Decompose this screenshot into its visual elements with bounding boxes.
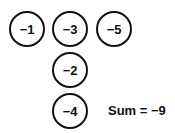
sum-label: Sum = −9: [108, 103, 166, 119]
number-circle-label: −2: [63, 64, 77, 77]
number-circle-label: −4: [63, 105, 77, 118]
number-circle-top-2[interactable]: −3: [52, 11, 88, 47]
number-circle-top-3[interactable]: −5: [96, 11, 132, 47]
number-circle-top-1[interactable]: −1: [9, 11, 45, 47]
number-circle-label: −3: [63, 23, 77, 36]
number-circle-label: −1: [20, 23, 34, 36]
number-circle-label: −5: [107, 23, 121, 36]
number-circle-stack-2[interactable]: −4: [52, 93, 88, 129]
diagram-canvas: −1 −3 −5 −2 −4 Sum = −9: [0, 0, 175, 133]
number-circle-stack-1[interactable]: −2: [52, 52, 88, 88]
